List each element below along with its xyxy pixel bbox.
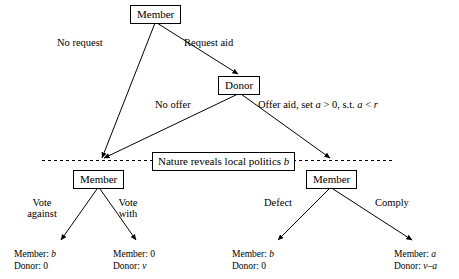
node-nature[interactable]: Nature reveals local politics b [152,152,295,171]
node-root-member[interactable]: Member [130,5,181,24]
edge-label-vote-with-line1: Vote [108,197,148,208]
payoff-vote-against: Member: b Donor: 0 [14,248,56,272]
edge-label-no-request: No request [57,37,103,49]
payoff-vote-with: Member: 0 Donor: v [113,248,155,272]
node-donor[interactable]: Donor [218,76,260,95]
edge-no-request [102,23,155,158]
node-right-member[interactable]: Member [306,170,357,189]
node-donor-label: Donor [225,79,253,91]
edge-label-vote-with-line2: with [108,208,148,219]
game-tree-diagram: Member Donor Member Member Nature reveal… [0,0,459,279]
edge-label-offer-aid: Offer aid, set a > 0, s.t. a < r [258,99,378,111]
payoff-defect: Member: b Donor: 0 [232,248,274,272]
node-nature-label: Nature reveals local politics b [158,155,289,167]
node-left-member[interactable]: Member [73,170,124,189]
payoff-vote-against-donor: Donor: 0 [14,260,56,272]
edge-label-no-offer: No offer [155,99,191,111]
payoff-comply-donor: Donor: v–a [394,260,437,272]
node-left-member-label: Member [80,173,117,185]
edge-label-comply: Comply [375,197,409,209]
edge-label-vote-against-line1: Vote [18,197,66,208]
payoff-comply-member: Member: a [394,248,437,260]
payoff-defect-donor: Donor: 0 [232,260,274,272]
edge-label-request-aid: Request aid [184,37,233,49]
node-right-member-label: Member [313,173,350,185]
payoff-defect-member: Member: b [232,248,274,260]
edge-vote-against [61,189,97,240]
edge-request-aid [157,23,238,74]
edge-label-vote-against-line2: against [18,208,66,219]
edge-label-defect: Defect [264,197,292,209]
payoff-vote-with-member: Member: 0 [113,248,155,260]
payoff-vote-with-donor: Donor: v [113,260,155,272]
node-root-member-label: Member [137,8,174,20]
payoff-comply: Member: a Donor: v–a [394,248,437,272]
edge-label-vote-against: Vote against [18,197,66,219]
edge-label-vote-with: Vote with [108,197,148,219]
payoff-vote-against-member: Member: b [14,248,56,260]
